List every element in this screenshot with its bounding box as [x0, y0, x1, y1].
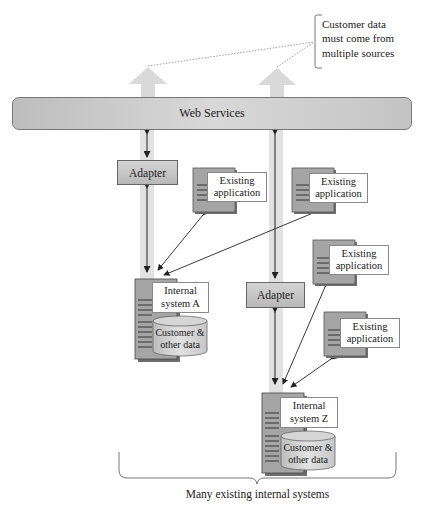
- adapter-box-a: Adapter: [117, 160, 178, 185]
- internal-system-a-data: Customer & other data: [153, 327, 207, 350]
- callout-text: Customer data must come from multiple so…: [322, 17, 394, 60]
- callout-line: [148, 42, 314, 66]
- existing-application-2: Existing application: [309, 173, 368, 203]
- internal-system-z-data: Customer & other data: [281, 442, 335, 465]
- callout-line: [277, 42, 314, 67]
- existing-application-4: Existing application: [340, 318, 400, 348]
- adapter-label: Adapter: [257, 289, 294, 301]
- upward-arrow-icon: [129, 67, 167, 97]
- diagram-caption: Many existing internal systems: [150, 488, 365, 500]
- internal-system-a: Internal system A: [152, 282, 209, 313]
- adapter-label: Adapter: [129, 167, 166, 179]
- upward-arrow-icon: [258, 68, 296, 97]
- web-services-label: Web Services: [179, 106, 244, 121]
- grouping-brace: [119, 452, 396, 484]
- internal-system-z: Internal system Z: [280, 397, 338, 428]
- existing-application-3: Existing application: [329, 245, 389, 275]
- existing-application-1: Existing application: [207, 172, 267, 202]
- web-services-bar: Web Services: [12, 97, 412, 130]
- adapter-box-z: Adapter: [246, 282, 305, 308]
- connector-band: [269, 130, 283, 410]
- callout-bracket: [315, 15, 322, 68]
